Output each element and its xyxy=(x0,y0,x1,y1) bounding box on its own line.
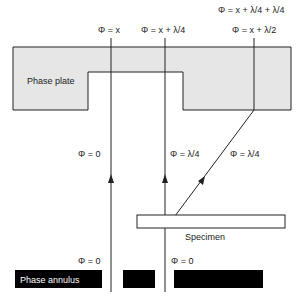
mid-phase-left: Φ = 0 xyxy=(78,149,100,159)
bottom-phase-left: Φ = 0 xyxy=(78,256,100,266)
top-phase-middle: Φ = x + λ/4 xyxy=(141,25,185,35)
annulus-right xyxy=(174,270,263,288)
top-phase-right: Φ = x + λ/2 xyxy=(232,25,276,35)
phase-annulus-label: Phase annulus xyxy=(20,275,80,285)
ray-diffracted xyxy=(166,110,254,228)
annulus-middle xyxy=(123,270,155,288)
bottom-phase-right: Φ = 0 xyxy=(171,256,193,266)
phase-contrast-diagram: Phase plate Φ = x Φ = x + λ/4 Φ = x + λ/… xyxy=(0,0,305,302)
phase-plate-label: Phase plate xyxy=(27,76,75,86)
arrow-up-icon xyxy=(162,174,168,183)
arrow-up-icon xyxy=(108,174,114,183)
top-phase-far-right: Φ = x + λ/4 + λ/4 xyxy=(218,5,284,15)
mid-phase-middle: Φ = λ/4 xyxy=(170,149,199,159)
specimen-label: Specimen xyxy=(185,232,225,242)
mid-phase-diffracted: Φ = λ/4 xyxy=(230,149,259,159)
top-phase-left: Φ = x xyxy=(98,25,120,35)
specimen xyxy=(137,215,285,228)
